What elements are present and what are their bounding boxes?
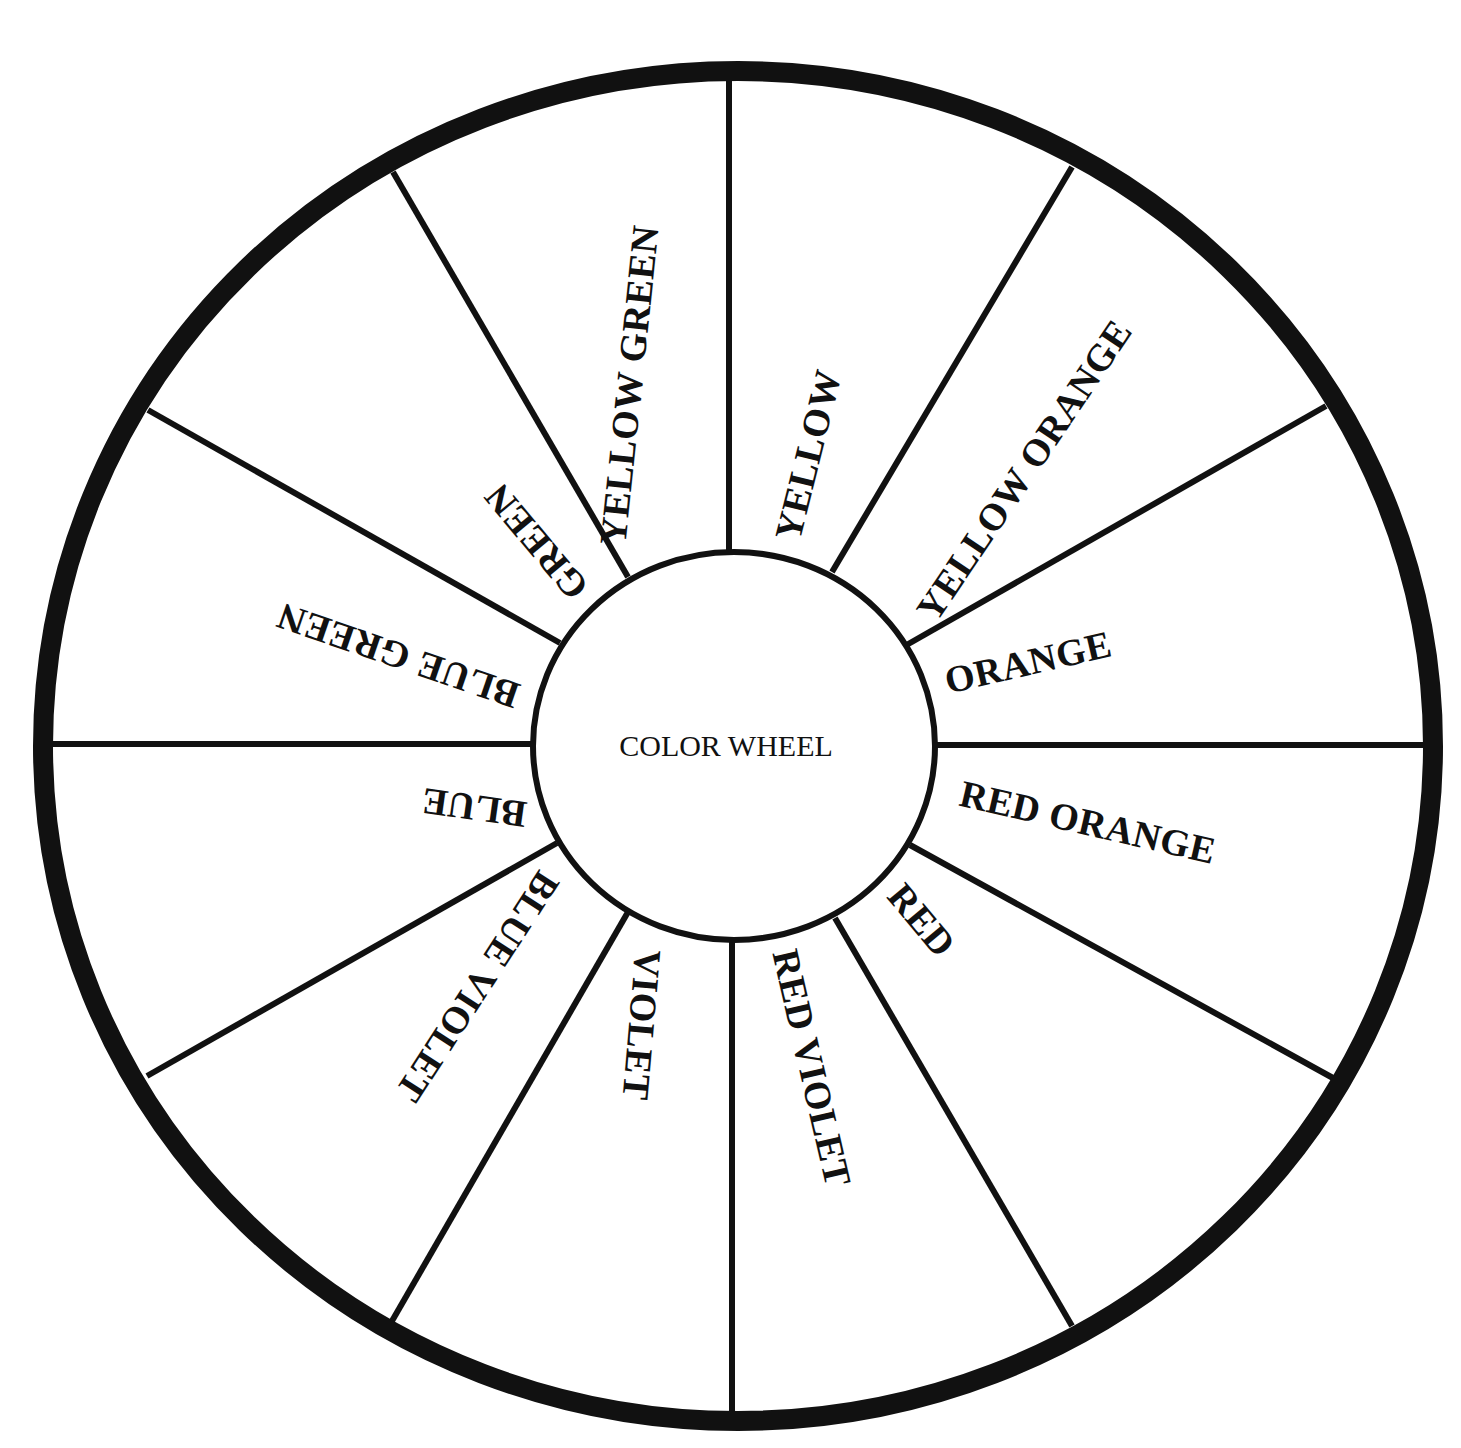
label-red-orange: RED ORANGE [956, 772, 1220, 872]
divider-red-redviolet [835, 918, 1072, 1326]
label-blue: BLUE [419, 780, 529, 836]
label-blue-violet: BLUE VIOLET [388, 864, 568, 1110]
label-violet: VIOLET [615, 948, 670, 1102]
divider-redorange-red [910, 845, 1333, 1078]
label-blue-green: BLUE GREEN [271, 595, 524, 717]
divider-yellow-yelloworange [832, 167, 1072, 572]
label-yellow-green: YELLOW GREEN [591, 223, 666, 547]
label-yellow: YELLOW [767, 365, 850, 544]
label-orange: ORANGE [941, 622, 1116, 701]
color-wheel-diagram: COLOR WHEEL YELLOW YELLOW ORANGE ORANGE … [0, 0, 1461, 1448]
label-red-violet: RED VIOLET [764, 945, 859, 1190]
label-red: RED [880, 875, 965, 965]
center-title: COLOR WHEEL [619, 729, 833, 762]
